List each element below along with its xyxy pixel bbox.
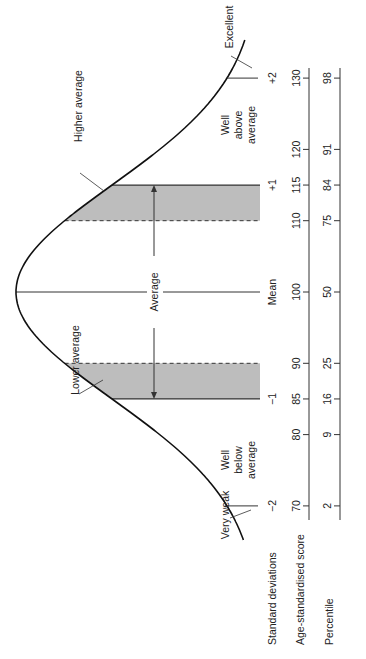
- very-weak-leader: [230, 510, 251, 518]
- score-label: 115: [290, 177, 302, 194]
- percentile-label: 98: [321, 72, 333, 84]
- score-label: 130: [290, 69, 302, 87]
- percentile-label: 50: [321, 286, 333, 298]
- percentile-label: 25: [321, 357, 333, 369]
- score-label: 90: [290, 357, 302, 369]
- score-label: 80: [290, 429, 302, 441]
- axes: 708085901001101151201302916255075849198: [290, 68, 340, 520]
- labels: AverageHigher averageLower averageExcell…: [69, 6, 335, 645]
- well-above-average-label: average: [245, 106, 257, 144]
- average-label: Average: [148, 272, 160, 311]
- sd-label: +1: [266, 179, 278, 191]
- higher-average-shade: [65, 185, 260, 221]
- very-weak-label: Very weak: [219, 490, 231, 539]
- score-label: 85: [290, 393, 302, 405]
- bell-curve: [16, 40, 245, 540]
- lower-average-shade: [65, 363, 260, 399]
- well-below-average-label: Well: [219, 450, 231, 470]
- percentile-label: 9: [321, 432, 333, 438]
- normal-distribution-diagram: −2−1Mean+1+2 708085901001101151201302916…: [0, 0, 366, 659]
- percentile-label: 2: [321, 503, 333, 509]
- higher-average-leader: [80, 173, 104, 191]
- row-label-age-standardised-score: Age-standardised score: [294, 534, 306, 645]
- well-above-average-label: above: [232, 111, 244, 140]
- lower-average-label: Lower average: [69, 325, 81, 395]
- well-above-average-label: Well: [219, 115, 231, 135]
- sd-label: −1: [266, 393, 278, 405]
- sd-label: Mean: [266, 279, 278, 305]
- percentile-label: 91: [321, 143, 333, 155]
- higher-average-label: Higher average: [72, 70, 84, 142]
- well-below-average-label: below: [232, 446, 244, 474]
- score-label: 100: [290, 283, 302, 301]
- score-label: 70: [290, 500, 302, 512]
- score-label: 120: [290, 140, 302, 158]
- percentile-label: 75: [321, 215, 333, 227]
- percentile-label: 16: [321, 393, 333, 405]
- row-label-standard-deviations: Standard deviations: [266, 552, 278, 645]
- sd-label: −2: [266, 500, 278, 512]
- sd-label: +2: [266, 72, 278, 84]
- excellent-label: Excellent: [223, 6, 235, 49]
- well-below-average-label: average: [245, 441, 257, 479]
- percentile-label: 84: [321, 179, 333, 191]
- row-label-percentile: Percentile: [323, 598, 335, 645]
- score-label: 110: [290, 212, 302, 229]
